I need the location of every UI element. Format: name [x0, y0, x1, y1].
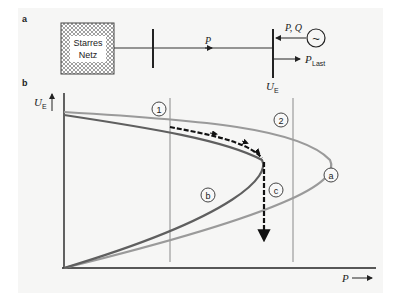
- x-axis-label: P: [341, 272, 349, 284]
- marker-b: b: [201, 188, 215, 202]
- marker-1: 1: [152, 102, 166, 116]
- path-arrow-2: [242, 141, 247, 143]
- bus-voltage-subscript: E: [274, 87, 279, 94]
- svg-text:b: b: [205, 191, 210, 201]
- path-arrow-1: [210, 133, 216, 134]
- svg-text:c: c: [274, 186, 279, 196]
- grid-box: Starres Netz: [61, 23, 114, 74]
- diagram-canvas: Starres Netz P ~ P, Q P Last U E U E P 1…: [0, 0, 400, 297]
- curve-b: [64, 115, 263, 268]
- generator-pq-label: P, Q: [284, 22, 303, 33]
- line-power-label: P: [204, 35, 211, 46]
- curve-a: [64, 112, 331, 268]
- grid-box-line1: Starres: [73, 38, 103, 48]
- svg-text:2: 2: [278, 116, 283, 126]
- marker-c: c: [269, 183, 283, 197]
- load-label: P: [304, 53, 312, 65]
- marker-2: 2: [274, 113, 288, 127]
- svg-text:1: 1: [156, 105, 161, 115]
- marker-a: a: [324, 168, 338, 182]
- generator-symbol: ~: [312, 31, 320, 46]
- svg-text:a: a: [328, 171, 333, 181]
- load-subscript: Last: [312, 60, 325, 67]
- y-axis-subscript: E: [42, 103, 47, 110]
- grid-box-line2: Netz: [79, 50, 98, 60]
